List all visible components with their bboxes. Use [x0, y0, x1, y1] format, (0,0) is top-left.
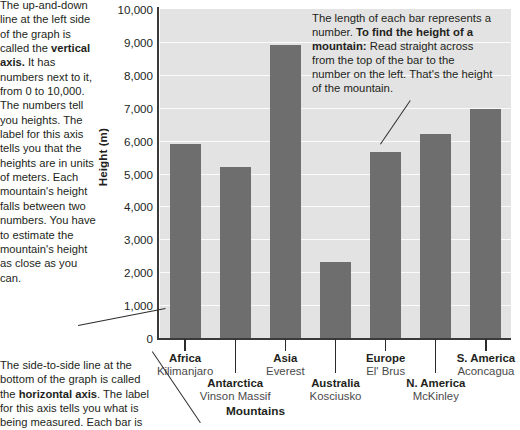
bar [170, 144, 201, 338]
x-axis-mountain-label: Vinson Massif [185, 390, 285, 403]
y-axis-tick-label: 10,000 [95, 3, 153, 16]
x-axis-mountain-label: Aconcagua [436, 365, 520, 378]
y-axis-tick-label: 1,000 [95, 299, 153, 312]
bar [420, 134, 451, 338]
bar [320, 262, 351, 338]
gridline [160, 141, 511, 142]
bar [370, 152, 401, 338]
x-axis-label-group: N. AmericaMcKinley [386, 377, 486, 402]
gridline [160, 206, 511, 207]
x-axis-label-group: AntarcticaVinson Massif [185, 377, 285, 402]
x-axis-tick [285, 339, 286, 351]
x-axis-tick [485, 339, 486, 351]
x-axis-mountain-label: El' Brus [336, 365, 436, 378]
x-axis-mountain-label: McKinley [386, 390, 486, 403]
callout-note: The length of each bar represents a numb… [312, 12, 494, 95]
y-axis-tick-label: 9,000 [95, 35, 153, 48]
x-axis-continent-label: S. America [436, 352, 520, 365]
x-axis-continent-label: Africa [135, 352, 235, 365]
y-axis-tick-label: 8,000 [95, 68, 153, 81]
y-axis-tick-label: 3,000 [95, 233, 153, 246]
x-axis-title: Mountains [0, 404, 511, 418]
bar [270, 45, 301, 338]
bar [220, 167, 251, 338]
x-axis-continent-label: N. America [386, 377, 486, 390]
x-axis-continent-label: Asia [235, 352, 335, 365]
y-axis-title: Height (m) [96, 128, 109, 186]
x-axis-mountain-label: Kosciusko [286, 390, 386, 403]
x-axis-label-group: EuropeEl' Brus [336, 352, 436, 377]
x-axis-mountain-label: Kilimanjaro [135, 365, 235, 378]
x-axis-label-group: S. AmericaAconcagua [436, 352, 520, 377]
bar [470, 109, 501, 338]
y-axis-tick-label: 2,000 [95, 266, 153, 279]
x-axis-label-group: AsiaEverest [235, 352, 335, 377]
x-axis-continent-label: Australia [286, 377, 386, 390]
gridline [160, 174, 511, 175]
x-axis-label-group: AustraliaKosciusko [286, 377, 386, 402]
x-axis-mountain-label: Everest [235, 365, 335, 378]
gridline [160, 108, 511, 109]
x-axis-continent-label: Antarctica [185, 377, 285, 390]
gridline [160, 239, 511, 240]
y-axis-tick-label: 7,000 [95, 101, 153, 114]
x-axis-continent-label: Europe [336, 352, 436, 365]
y-axis-tick-label: 4,000 [95, 200, 153, 213]
vertical-axis-line [157, 7, 159, 340]
x-axis-tick [385, 339, 386, 351]
x-axis-label-group: AfricaKilimanjaro [135, 352, 235, 377]
y-axis-tick-label: 0 [95, 332, 153, 345]
x-axis-tick [184, 339, 185, 351]
